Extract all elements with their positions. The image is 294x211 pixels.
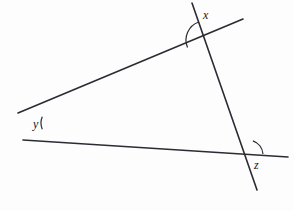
arc-x bbox=[186, 22, 199, 47]
angle-arcs-group bbox=[41, 22, 263, 154]
geometry-figure: x y z bbox=[0, 0, 294, 211]
line-upper-left-to-lower-right bbox=[18, 19, 243, 113]
geometry-canvas bbox=[0, 0, 294, 211]
arc-y bbox=[41, 117, 42, 130]
line-steep-top-to-bottom bbox=[192, 3, 257, 190]
arc-z bbox=[253, 141, 263, 154]
angle-label-z: z bbox=[254, 159, 259, 171]
angle-label-x: x bbox=[203, 9, 208, 21]
line-lower-left-to-right bbox=[23, 140, 288, 157]
lines-group bbox=[18, 3, 288, 190]
angle-label-y: y bbox=[33, 118, 38, 130]
